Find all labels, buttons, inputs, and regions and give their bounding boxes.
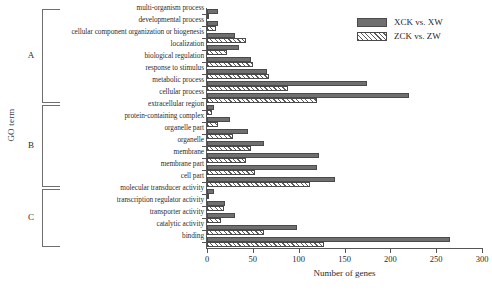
- bar-xck-xw: [207, 237, 450, 242]
- x-axis-tick: [482, 248, 483, 253]
- y-axis-title: GO term: [6, 95, 16, 155]
- x-axis-tick: [299, 248, 300, 253]
- bar-zck-zw: [207, 86, 288, 91]
- bar-xck-xw: [207, 165, 317, 170]
- bar-xck-xw: [207, 69, 267, 74]
- bar-zck-zw: [207, 170, 255, 175]
- x-axis-tick-label: 250: [421, 254, 451, 264]
- bar-xck-xw: [207, 129, 248, 134]
- group-letter: A: [24, 50, 38, 60]
- bar-xck-xw: [207, 177, 335, 182]
- bar-zck-zw: [207, 134, 233, 139]
- category-label: binding: [182, 229, 204, 242]
- x-axis-tick-label: 100: [284, 254, 314, 264]
- group-letter: B: [24, 140, 38, 150]
- bar-zck-zw: [207, 158, 246, 163]
- plot-area: [207, 8, 482, 248]
- bar-xck-xw: [207, 201, 225, 206]
- bar-zck-zw: [207, 14, 209, 19]
- x-axis-tick-label: 50: [238, 254, 268, 264]
- x-axis-tick-label: 200: [375, 254, 405, 264]
- group-bracket: [42, 105, 60, 187]
- x-axis-tick: [436, 248, 437, 253]
- go-term-bar-chart: GO term ABC multi-organism processdevelo…: [0, 0, 492, 296]
- bar-zck-zw: [207, 50, 227, 55]
- bar-zck-zw: [207, 230, 264, 235]
- bar-zck-zw: [207, 218, 221, 223]
- x-axis-tick: [345, 248, 346, 253]
- bar-xck-xw: [207, 9, 218, 14]
- bar-zck-zw: [207, 38, 246, 43]
- bar-zck-zw: [207, 146, 251, 151]
- group-letter: C: [24, 212, 38, 222]
- bar-zck-zw: [207, 74, 269, 79]
- x-axis-tick-label: 150: [330, 254, 360, 264]
- bar-xck-xw: [207, 45, 239, 50]
- bar-xck-xw: [207, 141, 264, 146]
- group-bracket: [42, 189, 60, 247]
- bar-zck-zw: [207, 194, 209, 199]
- bar-xck-xw: [207, 33, 235, 38]
- bar-xck-xw: [207, 57, 251, 62]
- bar-zck-zw: [207, 182, 310, 187]
- legend-label: ZCK vs. ZW: [394, 31, 441, 41]
- bar-xck-xw: [207, 21, 218, 26]
- legend-label: XCK vs. XW: [394, 17, 443, 27]
- bar-xck-xw: [207, 93, 409, 98]
- bar-xck-xw: [207, 225, 297, 230]
- x-axis-tick: [390, 248, 391, 253]
- bar-xck-xw: [207, 81, 367, 86]
- bar-xck-xw: [207, 105, 214, 110]
- bar-zck-zw: [207, 206, 224, 211]
- bar-xck-xw: [207, 213, 235, 218]
- bar-zck-zw: [207, 122, 218, 127]
- bar-xck-xw: [207, 153, 319, 158]
- category-label-list: multi-organism processdevelopmental proc…: [60, 0, 204, 256]
- group-bracket: [42, 9, 60, 103]
- bar-zck-zw: [207, 242, 324, 247]
- bar-zck-zw: [207, 26, 216, 31]
- bar-xck-xw: [207, 117, 230, 122]
- x-axis-tick-label: 300: [467, 254, 492, 264]
- x-axis-tick-label: 0: [192, 254, 222, 264]
- legend-swatch: [357, 32, 387, 41]
- x-axis-tick: [253, 248, 254, 253]
- legend-swatch: [357, 18, 387, 27]
- x-axis-title: Number of genes: [207, 268, 482, 278]
- bar-zck-zw: [207, 98, 317, 103]
- bar-xck-xw: [207, 189, 214, 194]
- bar-zck-zw: [207, 110, 212, 115]
- bar-zck-zw: [207, 62, 253, 67]
- x-axis-tick: [207, 248, 208, 253]
